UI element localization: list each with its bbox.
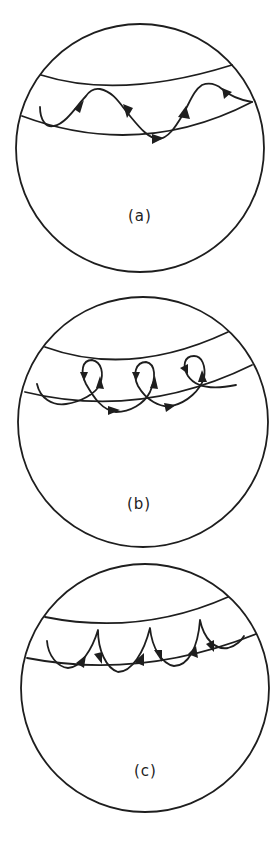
arrow-icon <box>123 104 133 118</box>
arrow-icon <box>96 376 104 389</box>
panel-label-c: (c) <box>134 762 157 780</box>
panel-label-a: (a) <box>128 207 152 225</box>
panel-a: (a) <box>16 24 264 272</box>
sphere-outline-a <box>16 24 264 272</box>
panel-b: (b) <box>18 297 268 547</box>
arrow-icon <box>80 372 88 381</box>
lower-boundary-b <box>25 365 252 401</box>
arrow-icon <box>164 403 176 412</box>
panel-label-b: (b) <box>127 495 151 513</box>
arrow-icon <box>198 370 207 382</box>
arrow-icon <box>108 406 120 415</box>
lower-boundary-a <box>22 102 252 135</box>
arrow-icon <box>76 655 86 668</box>
arrow-icon <box>222 88 232 99</box>
panel-c: (c) <box>21 564 269 812</box>
figure-container: (a) (b) <box>0 0 279 857</box>
arrow-icon <box>94 652 102 664</box>
arrow-icon <box>178 106 190 119</box>
arrow-icon <box>74 100 84 113</box>
trajectory-c <box>47 620 244 672</box>
upper-boundary-b <box>45 332 228 359</box>
arrow-icon <box>132 372 140 381</box>
upper-boundary-a <box>41 65 232 85</box>
